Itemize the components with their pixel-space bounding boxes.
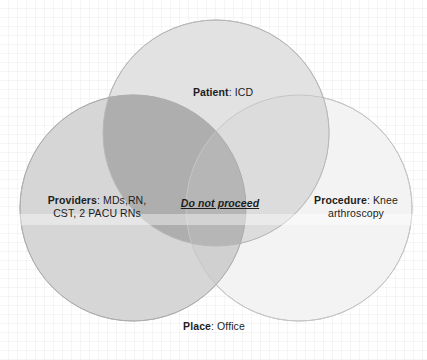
label-procedure-value-line2: arthroscopy [328,207,384,219]
label-providers-key: Providers [48,194,97,206]
label-procedure-key: Procedure [314,194,367,206]
label-patient-key: Patient [193,86,229,98]
label-place: Place: Office [148,320,280,333]
venn-circles [0,0,427,360]
label-procedure: Procedure: Knee arthroscopy [292,194,420,220]
label-patient-value: : ICD [229,86,253,98]
label-providers: Providers: MDs,RN, CST, 2 PACU RNs [24,194,170,220]
label-providers-value-line2: CST, 2 PACU RNs [53,207,141,219]
label-procedure-value: : Knee [367,194,398,206]
label-place-key: Place [183,320,211,332]
do-not-proceed-annotation: Do not proceed [176,196,264,210]
label-patient: Patient: ICD [153,86,293,99]
label-providers-value: : MDs,RN, [97,194,146,206]
venn-diagram: Patient: ICD Providers: MDs,RN, CST, 2 P… [0,0,427,360]
label-place-value: : Office [211,320,245,332]
